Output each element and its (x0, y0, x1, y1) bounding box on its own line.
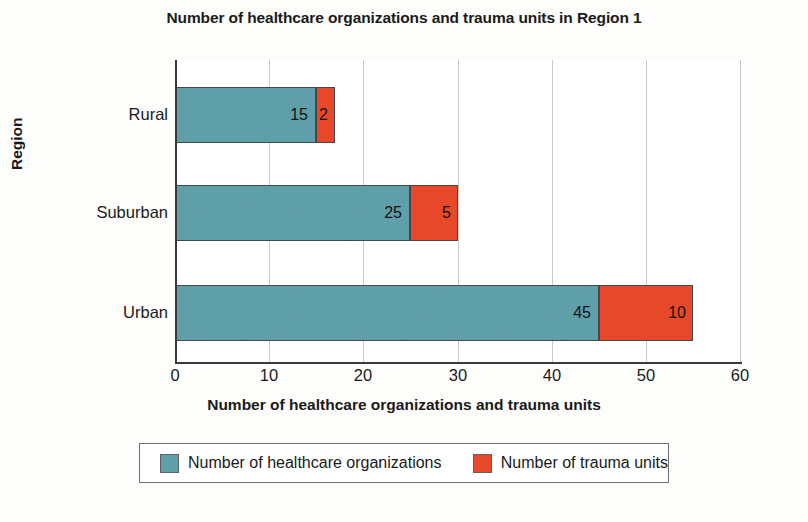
legend-swatch-icon-trauma (473, 454, 492, 473)
gridline-60 (740, 60, 741, 363)
bar-segment-urban-trauma[interactable]: 10 (599, 285, 693, 341)
chart-legend: Number of healthcare organizations Numbe… (139, 443, 669, 483)
legend-label-organizations: Number of healthcare organizations (188, 454, 441, 472)
bar-segment-rural-trauma[interactable]: 2 (316, 87, 335, 143)
y-axis-title: Region (8, 117, 26, 170)
x-tick-30: 30 (438, 366, 478, 385)
bar-value-urban-trauma: 10 (668, 305, 692, 321)
legend-item-trauma[interactable]: Number of trauma units (473, 454, 668, 473)
bar-value-rural-trauma: 2 (319, 107, 334, 123)
bar-value-suburban-trauma: 5 (442, 205, 457, 221)
y-category-suburban: Suburban (48, 203, 168, 222)
bar-value-suburban-organizations: 25 (384, 205, 409, 221)
x-tick-50: 50 (626, 366, 666, 385)
x-tick-40: 40 (532, 366, 572, 385)
legend-label-trauma: Number of trauma units (501, 454, 668, 472)
y-category-rural: Rural (48, 105, 168, 124)
legend-swatch-icon-organizations (160, 454, 179, 473)
x-tick-60: 60 (720, 366, 760, 385)
x-axis-title: Number of healthcare organizations and t… (0, 396, 808, 414)
x-tick-20: 20 (343, 366, 383, 385)
bar-segment-suburban-organizations[interactable]: 25 (175, 185, 410, 241)
bar-value-rural-organizations: 15 (290, 107, 315, 123)
bar-segment-rural-organizations[interactable]: 15 (175, 87, 316, 143)
x-tick-0: 0 (155, 366, 195, 385)
y-category-urban: Urban (48, 303, 168, 322)
x-tick-10: 10 (249, 366, 289, 385)
legend-item-organizations[interactable]: Number of healthcare organizations (160, 454, 441, 473)
y-axis-line (175, 60, 177, 364)
bar-segment-suburban-trauma[interactable]: 5 (410, 185, 458, 241)
x-axis-line (175, 362, 742, 364)
bar-value-urban-organizations: 45 (573, 305, 598, 321)
bar-segment-urban-organizations[interactable]: 45 (175, 285, 599, 341)
